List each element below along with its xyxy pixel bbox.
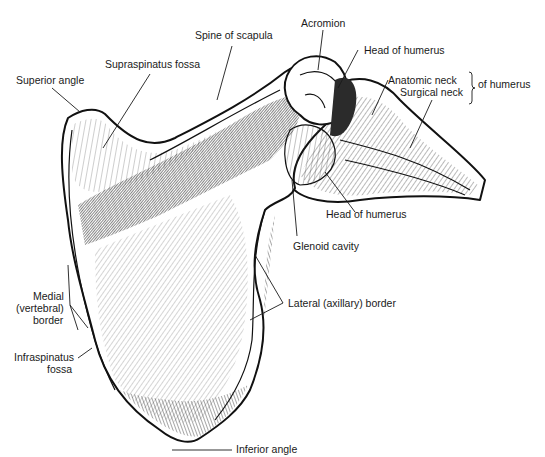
label-of-humerus: of humerus xyxy=(478,78,531,90)
label-spine-of-scapula: Spine of scapula xyxy=(195,29,273,41)
label-lateral-border: Lateral (axillary) border xyxy=(288,297,396,309)
leader-superior-angle xyxy=(52,88,80,112)
humerus-bracket xyxy=(469,72,475,104)
leader-infraspinatus xyxy=(78,348,92,358)
label-supraspinatus-fossa: Supraspinatus fossa xyxy=(105,58,200,70)
label-anatomic-neck: Anatomic neck xyxy=(388,74,458,86)
label-head-of-humerus-bottom: Head of humerus xyxy=(326,208,407,220)
label-superior-angle: Superior angle xyxy=(16,74,84,86)
label-glenoid-cavity: Glenoid cavity xyxy=(293,240,360,252)
scapula-diagram: Superior angle Supraspinatus fossa Spine… xyxy=(0,0,545,457)
label-medial-border-2: (vertebral) xyxy=(16,302,64,314)
label-infraspinatus-1: Infraspinatus xyxy=(14,351,74,363)
label-inferior-angle: Inferior angle xyxy=(236,443,297,455)
leader-spine xyxy=(217,46,232,100)
leader-medial-border-2 xyxy=(70,305,78,330)
label-acromion: Acromion xyxy=(301,17,346,29)
label-surgical-neck: Surgical neck xyxy=(400,86,464,98)
label-medial-border-1: Medial xyxy=(33,290,64,302)
scapula xyxy=(62,63,338,441)
label-medial-border-3: border xyxy=(33,314,64,326)
label-infraspinatus-2: fossa xyxy=(47,363,72,375)
label-head-of-humerus-top: Head of humerus xyxy=(364,44,445,56)
